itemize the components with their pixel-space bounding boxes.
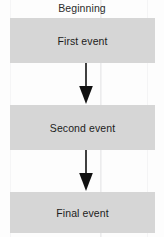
flow-node-label: Final event: [56, 207, 108, 219]
flow-arrow-down-icon: [74, 63, 98, 105]
diagram-title: Beginning: [0, 1, 164, 15]
flow-node-label: First event: [57, 35, 107, 47]
flow-node-first-event: First event: [10, 18, 155, 63]
flow-arrow-down-icon: [74, 150, 98, 192]
flow-node-second-event: Second event: [10, 105, 155, 150]
flow-node-label: Second event: [50, 122, 115, 134]
flow-node-final-event: Final event: [10, 192, 155, 233]
flowchart-canvas: Beginning First event Second event Final…: [0, 0, 164, 237]
